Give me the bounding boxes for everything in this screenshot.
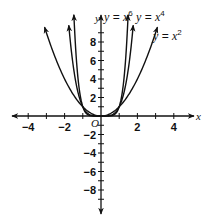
curve-label: y = x4	[135, 9, 165, 24]
curve-label: y = x2	[152, 28, 182, 43]
labels: −4−2248642−2−4−6−8xyOy = x6y = x4y = x2	[22, 9, 201, 196]
x-tick-label: −4	[22, 121, 35, 133]
curve-label: y = x6	[103, 9, 133, 24]
y-tick-label: −4	[83, 147, 96, 159]
y-axis-label: y	[94, 12, 100, 24]
y-tick-label: 2	[90, 92, 96, 104]
x-tick-label: 2	[134, 121, 140, 133]
x-axis-label: x	[195, 110, 201, 122]
y-tick-label: 6	[90, 55, 96, 67]
axes	[12, 15, 194, 214]
function-graph: −4−2248642−2−4−6−8xyOy = x6y = x4y = x2	[0, 0, 208, 222]
x-tick-label: 4	[171, 121, 178, 133]
y-tick-label: −8	[83, 184, 96, 196]
y-tick-label: 4	[90, 73, 97, 85]
y-tick-label: 8	[90, 36, 96, 48]
x-tick-label: −2	[58, 121, 71, 133]
y-tick-label: −6	[83, 166, 96, 178]
origin-label: O	[91, 117, 99, 129]
y-tick-label: −2	[83, 129, 96, 141]
